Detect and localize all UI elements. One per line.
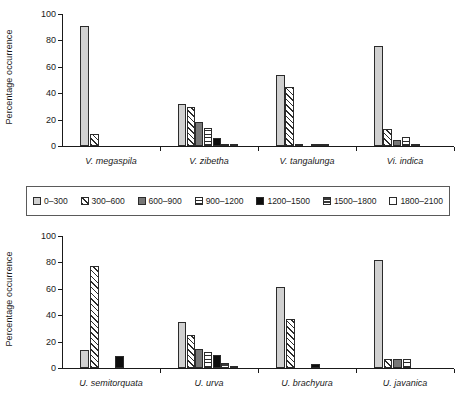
- bar: [276, 75, 284, 146]
- y-axis-tick-label: 80: [46, 258, 56, 267]
- bar: [411, 144, 419, 146]
- bar: [393, 359, 402, 368]
- bar: [393, 140, 401, 146]
- bar-set: [276, 14, 337, 146]
- bar: [402, 137, 410, 146]
- x-axis-tick: [356, 147, 357, 151]
- chart-panel-bottom: Percentage occurrence 020406080100 U. se…: [0, 228, 476, 402]
- y-axis-tick: [58, 93, 62, 94]
- chart-panel-top: Percentage occurrence 020406080100 V. me…: [0, 6, 476, 181]
- y-axis-tick: [58, 120, 62, 121]
- x-axis-tick: [454, 369, 455, 373]
- bar: [230, 144, 238, 146]
- x-axis-tick: [356, 369, 357, 373]
- plot-area-bottom: 020406080100: [62, 236, 454, 369]
- x-axis-category-label: V. megaspila: [62, 156, 160, 172]
- y-axis-tick-label: 20: [46, 338, 56, 347]
- bar-groups-bottom: [62, 236, 454, 368]
- x-axis-labels-top: V. megaspilaV. zibethaV. tangalungaVi. i…: [62, 156, 454, 172]
- legend-item: 600–900: [138, 196, 182, 206]
- legend-swatch-icon: [195, 197, 203, 205]
- bar: [230, 366, 238, 368]
- y-axis-tick: [58, 315, 62, 316]
- legend-swatch-icon: [138, 197, 146, 205]
- bar: [285, 87, 293, 146]
- bar: [195, 122, 203, 146]
- legend-swatch-icon: [323, 197, 331, 205]
- bar-group: [62, 14, 160, 146]
- legend-item: 300–600: [81, 196, 125, 206]
- bar-group: [258, 236, 356, 368]
- bar: [383, 129, 391, 146]
- x-axis-labels-bottom: U. semitorquataU. urvaU. brachyuraU. jav…: [62, 378, 454, 394]
- y-axis-tick: [58, 342, 62, 343]
- bar: [311, 144, 319, 146]
- bar-group: [356, 14, 454, 146]
- legend-item: 1500–1800: [323, 196, 377, 206]
- bar: [403, 359, 412, 368]
- y-axis-tick-label: 100: [41, 232, 56, 241]
- bar: [320, 144, 328, 146]
- bar: [221, 363, 229, 368]
- bar: [90, 266, 99, 368]
- legend-label: 1500–1800: [334, 196, 377, 206]
- y-axis-tick-label: 100: [41, 10, 56, 19]
- bar: [80, 26, 89, 146]
- x-axis-tick: [258, 147, 259, 151]
- legend-label: 1200–1500: [267, 196, 310, 206]
- legend-item: 900–1200: [195, 196, 244, 206]
- bar-set: [374, 14, 435, 146]
- bar: [374, 46, 382, 146]
- y-axis-tick-label: 80: [46, 36, 56, 45]
- figure-root: Percentage occurrence 020406080100 V. me…: [0, 0, 476, 402]
- x-axis-tick: [454, 147, 455, 151]
- y-axis-label-bottom: Percentage occurrence: [2, 228, 16, 370]
- bar-set: [80, 236, 141, 368]
- x-axis-category-label: U. urva: [160, 378, 258, 394]
- y-axis-tick: [58, 40, 62, 41]
- bar: [311, 364, 320, 368]
- legend-item: 0–300: [33, 196, 68, 206]
- legend-label: 300–600: [92, 196, 125, 206]
- bar-group: [356, 236, 454, 368]
- bar-set: [374, 236, 435, 368]
- plot-area-top: 020406080100: [62, 14, 454, 147]
- bar: [187, 107, 195, 146]
- bar-group: [62, 236, 160, 368]
- bar: [204, 128, 212, 146]
- x-axis-category-label: V. zibetha: [160, 156, 258, 172]
- x-axis-category-label: U. brachyura: [258, 378, 356, 394]
- legend-item: 1800–2100: [389, 196, 443, 206]
- bar: [195, 349, 203, 368]
- bar: [286, 319, 295, 368]
- x-axis-tick: [160, 369, 161, 373]
- legend-swatch-icon: [256, 197, 264, 205]
- bar-set: [276, 236, 337, 368]
- bar: [213, 138, 221, 146]
- y-axis-tick: [58, 289, 62, 290]
- y-axis-tick: [58, 236, 62, 237]
- y-axis-label-top: Percentage occurrence: [2, 6, 16, 148]
- x-axis-category-label: V. tangalunga: [258, 156, 356, 172]
- y-axis-tick: [58, 14, 62, 15]
- legend-item: 1200–1500: [256, 196, 310, 206]
- bar: [178, 322, 186, 368]
- y-axis-tick: [58, 368, 62, 369]
- y-axis-tick-label: 0: [51, 142, 56, 151]
- x-axis-tick: [258, 369, 259, 373]
- bar: [221, 144, 229, 146]
- y-axis-tick-label: 0: [51, 364, 56, 373]
- bar: [187, 335, 195, 368]
- y-axis-tick: [58, 146, 62, 147]
- bar-group: [258, 14, 356, 146]
- bar-set: [178, 14, 239, 146]
- bar: [213, 355, 221, 368]
- y-axis-tick: [58, 262, 62, 263]
- bar: [178, 104, 186, 146]
- bar: [374, 260, 383, 368]
- legend-swatch-icon: [33, 197, 41, 205]
- x-axis-category-label: U. semitorquata: [62, 378, 160, 394]
- bar: [384, 359, 393, 368]
- x-axis-tick: [160, 147, 161, 151]
- legend-swatch-icon: [389, 197, 397, 205]
